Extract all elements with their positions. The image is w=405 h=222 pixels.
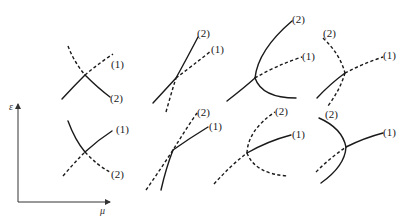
curve-1-solid [173, 127, 208, 150]
curve-2-solid-upper [255, 21, 292, 78]
curve-2-dashed [146, 113, 197, 190]
label-2: (2) [110, 92, 123, 105]
panel-r1c3: (2) (1) [227, 13, 315, 101]
curve-1-dashed [176, 51, 211, 78]
panel-r1c2: (2) (1) [153, 27, 224, 112]
label-1: (1) [292, 128, 305, 141]
curve-solid-lower [161, 150, 173, 190]
curve-2-dashed-upper [247, 112, 275, 153]
label-2: (2) [197, 106, 210, 119]
curve-2-dashed [85, 152, 110, 172]
x-axis-label: μ [99, 205, 105, 216]
y-axis-label: ε [9, 101, 13, 112]
curve-2-solid [85, 75, 110, 97]
curve-2-dashed-upper [323, 38, 345, 73]
curve-2-solid-lower [321, 147, 346, 183]
curve-2-solid-upper [68, 121, 85, 152]
label-2: (2) [275, 105, 288, 118]
curve-2-solid-fold [255, 78, 296, 98]
panel-r2c3: (2) (1) [214, 105, 305, 184]
label-2: (2) [323, 27, 336, 40]
diagram-canvas: ε μ (1) (2) (2) (1) (2) (1) (2) (1) [0, 0, 405, 222]
curve-dashed-lower [316, 147, 346, 172]
curve-1-solid [85, 131, 112, 152]
curve-2-dashed-upper [68, 46, 85, 75]
label-2: (2) [111, 168, 124, 181]
curve-2-dashed-fold [247, 153, 288, 176]
curve-solid-lower [227, 78, 255, 101]
label-1: (1) [302, 50, 315, 63]
panel-r1c4: (2) (1) [317, 27, 396, 106]
curve-1-solid [247, 135, 291, 153]
label-2: (2) [292, 13, 305, 26]
panel-r2c1: (1) (2) [63, 121, 129, 181]
label-1: (1) [383, 49, 396, 62]
label-2: (2) [197, 27, 210, 40]
curve-2-solid [153, 37, 198, 103]
axes: ε μ [9, 101, 110, 216]
curve-1-solid [346, 133, 383, 147]
label-1: (1) [111, 58, 124, 71]
label-1: (1) [116, 123, 129, 136]
curve-1-dashed [255, 57, 302, 78]
panel-r1c1: (1) (2) [62, 46, 124, 105]
label-1: (1) [383, 126, 396, 139]
curve-1-dashed-lower [63, 152, 85, 176]
curve-dashed-lower [214, 153, 247, 184]
label-1: (1) [211, 43, 224, 56]
curve-2-solid-upper [319, 118, 346, 147]
curve-1-dashed [85, 54, 113, 75]
panel-r2c4: (2) (1) [316, 108, 396, 183]
label-2: (2) [325, 108, 338, 121]
curve-1-solid [62, 75, 85, 99]
label-1: (1) [209, 120, 222, 133]
panel-r2c2: (2) (1) [146, 106, 222, 190]
curve-2-dashed-lower [328, 73, 345, 106]
curve-1-dashed [345, 57, 383, 73]
